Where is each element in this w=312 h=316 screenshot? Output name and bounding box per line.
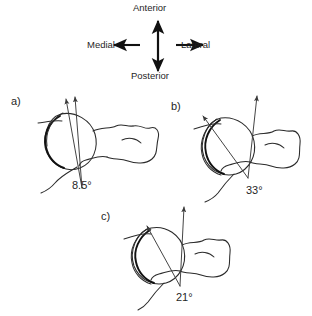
angle-label-a: 8.5° — [72, 180, 92, 191]
panel-a-axis-2 — [75, 97, 82, 188]
figure-canvas — [0, 0, 312, 316]
panel-letter-c: c) — [101, 211, 110, 222]
compass-label-lateral: Lateral — [181, 40, 210, 50]
panel-a-axis-1 — [66, 99, 82, 188]
panel-b-axis-2 — [248, 96, 257, 178]
compass-label-posterior: Posterior — [131, 71, 169, 81]
compass-label-anterior: Anterior — [133, 3, 166, 13]
panel-letter-a: a) — [11, 96, 21, 107]
compass-label-medial: Medial — [87, 40, 115, 50]
panel-letter-b: b) — [171, 101, 181, 112]
figure-root: Anterior Posterior Medial Lateral a) 8.5… — [0, 0, 312, 316]
panel-a-drawing — [38, 97, 159, 193]
angle-label-c: 21° — [176, 292, 193, 303]
angle-label-b: 33° — [246, 185, 263, 196]
